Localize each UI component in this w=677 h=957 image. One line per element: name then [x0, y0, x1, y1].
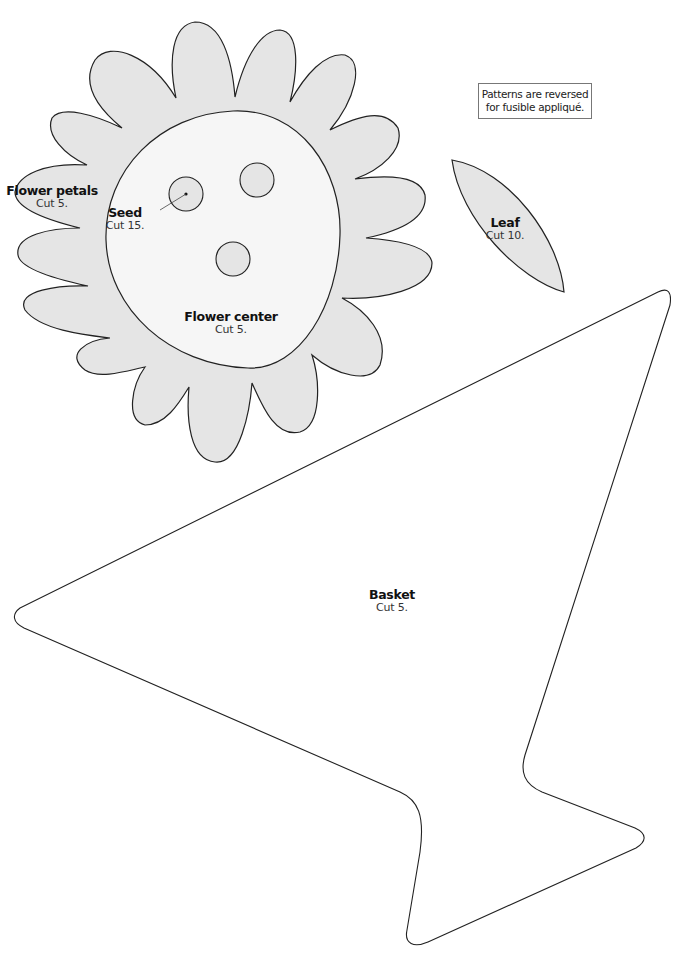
flower-center-instruction: Cut 5.	[184, 323, 277, 336]
seed-circle	[216, 242, 250, 276]
basket-shape	[14, 290, 670, 945]
leaf-title: Leaf	[486, 216, 525, 229]
leaf-instruction: Cut 10.	[486, 229, 525, 242]
pattern-sheet	[0, 0, 677, 957]
basket-instruction: Cut 5.	[369, 601, 415, 614]
basket-label: Basket Cut 5.	[369, 588, 415, 614]
seed-label: Seed Cut 15.	[106, 206, 145, 232]
flower-petals-instruction: Cut 5.	[6, 197, 98, 210]
flower-center-title: Flower center	[184, 310, 277, 323]
seed-instruction: Cut 15.	[106, 219, 145, 232]
flower-center-label: Flower center Cut 5.	[184, 310, 277, 336]
reversed-patterns-note: Patterns are reversed for fusible appliq…	[478, 83, 592, 119]
note-line-2: for fusible appliqué.	[479, 101, 591, 114]
seed-circle	[240, 163, 274, 197]
note-line-1: Patterns are reversed	[479, 88, 591, 101]
leaf-label: Leaf Cut 10.	[486, 216, 525, 242]
seed-title: Seed	[106, 206, 145, 219]
flower-petals-label: Flower petals Cut 5.	[6, 184, 98, 210]
basket-title: Basket	[369, 588, 415, 601]
flower-petals-title: Flower petals	[6, 184, 98, 197]
